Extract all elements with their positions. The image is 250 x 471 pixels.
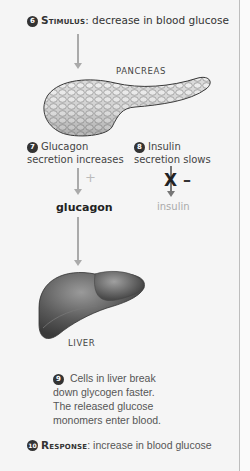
blocked-x-icon: X (164, 172, 177, 189)
step-7-caption: 7Glucagon secretion increases (27, 140, 124, 166)
arrow-glucagon-to-liver (77, 217, 79, 261)
arrowhead-icon (74, 189, 82, 195)
liver-label: LIVER (68, 338, 95, 348)
response-heading: Response (41, 439, 87, 451)
step8-line2: secretion slows (134, 153, 211, 166)
glucagon-label: glucagon (56, 201, 113, 214)
page-margin (240, 0, 250, 471)
minus-sign: – (183, 170, 191, 189)
stimulus-caption: 6Stimulus: decrease in blood glucose (27, 14, 229, 27)
step-8-caption: 8Insulin secretion slows (134, 140, 211, 166)
step-9-line2: down glycogen faster. (53, 385, 161, 399)
step-9-line3: The released glucose (53, 399, 161, 413)
step-9-caption: 9 Cells in liver break down glycogen fas… (53, 371, 161, 427)
step-badge-9: 9 (53, 374, 64, 385)
step-9-line4: monomers enter blood. (53, 413, 161, 427)
step-7-line2: secretion increases (27, 153, 124, 166)
arrowhead-icon (74, 260, 82, 266)
stimulus-text: : decrease in blood glucose (85, 14, 229, 26)
stimulus-heading: Stimulus (41, 14, 85, 26)
insulin-label: insulin (157, 201, 190, 212)
arrow-stimulus-to-pancreas (77, 34, 79, 64)
plus-sign: + (85, 170, 96, 185)
response-caption: 10Response: increase in blood glucose (27, 439, 212, 451)
step-badge-7: 7 (27, 142, 38, 153)
step-8-line1: Insulin (148, 141, 181, 152)
step-badge-8: 8 (134, 142, 145, 153)
arrowhead-icon (74, 63, 82, 69)
response-text: : increase in blood glucose (87, 439, 211, 451)
step-badge-6: 6 (27, 16, 38, 27)
step-badge-10: 10 (27, 440, 38, 451)
step-9-line1: Cells in liver break (70, 372, 156, 384)
arrowhead-icon (167, 191, 175, 197)
liver-illustration-icon (35, 268, 147, 343)
step-7-line1: Glucagon (41, 141, 88, 152)
pancreas-illustration-icon (40, 75, 215, 140)
arrow-to-glucagon (77, 168, 79, 190)
